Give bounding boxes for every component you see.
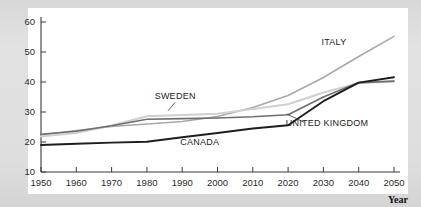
series-label-united-kingdom: UNITED KINGDOM [286, 118, 369, 128]
x-tick-label: 2010 [242, 177, 263, 188]
chart-figure: 102030405060 195019601970198019902000201… [0, 0, 421, 207]
x-tick-label: 1980 [136, 177, 157, 188]
leader-line-sweden [168, 102, 175, 110]
x-tick-label: 1990 [172, 177, 193, 188]
x-tick-label: 2030 [313, 177, 334, 188]
x-tick-label: 2020 [278, 177, 299, 188]
series-label-canada: CANADA [180, 137, 219, 147]
x-tick-label: 1960 [66, 177, 87, 188]
y-tick-label: 20 [24, 136, 35, 147]
x-axis-ticks: 1950196019701980199020002010202020302040… [30, 167, 404, 188]
x-tick-label: 2040 [348, 177, 369, 188]
y-tick-label: 60 [24, 16, 35, 27]
y-tick-label: 40 [24, 76, 35, 87]
y-axis-ticks: 102030405060 [24, 16, 46, 177]
x-tick-label: 1950 [30, 177, 51, 188]
series-label-italy: ITALY [322, 37, 347, 47]
x-tick-label: 1970 [101, 177, 122, 188]
y-tick-label: 30 [24, 106, 35, 117]
series-label-sweden: SWEDEN [155, 91, 196, 101]
x-tick-label: 2050 [383, 177, 404, 188]
series-lines [41, 36, 394, 145]
x-axis-title: Year [388, 194, 409, 205]
x-tick-label: 2000 [207, 177, 228, 188]
y-tick-label: 50 [24, 46, 35, 57]
line-chart: 102030405060 195019601970198019902000201… [0, 0, 421, 207]
y-tick-label: 10 [24, 166, 35, 177]
